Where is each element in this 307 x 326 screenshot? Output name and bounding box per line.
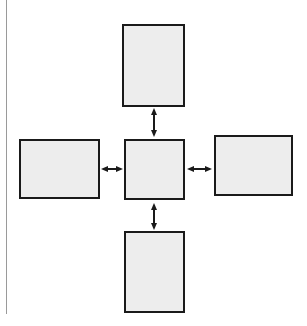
right-box[interactable]: [214, 135, 293, 196]
bottom-box[interactable]: [124, 231, 185, 313]
double-arrow-horizontal-icon: [101, 166, 123, 172]
double-arrow-vertical-icon: [151, 108, 157, 137]
arrow-center-right: [187, 166, 212, 172]
bottom-box-label: [126, 233, 183, 311]
center-box-label: [126, 141, 183, 198]
left-box-label: [21, 141, 98, 197]
top-box[interactable]: [122, 24, 185, 107]
double-arrow-vertical-icon: [151, 203, 157, 230]
double-arrow-horizontal-icon: [187, 166, 212, 172]
arrow-left-center: [101, 166, 123, 172]
center-box[interactable]: [124, 139, 185, 200]
page-edge-rule: [6, 0, 7, 314]
right-box-label: [216, 137, 291, 194]
arrow-center-bottom: [151, 203, 157, 230]
top-box-label: [124, 26, 183, 105]
left-box[interactable]: [19, 139, 100, 199]
arrow-top-center: [151, 108, 157, 137]
figure-canvas: [0, 0, 307, 326]
